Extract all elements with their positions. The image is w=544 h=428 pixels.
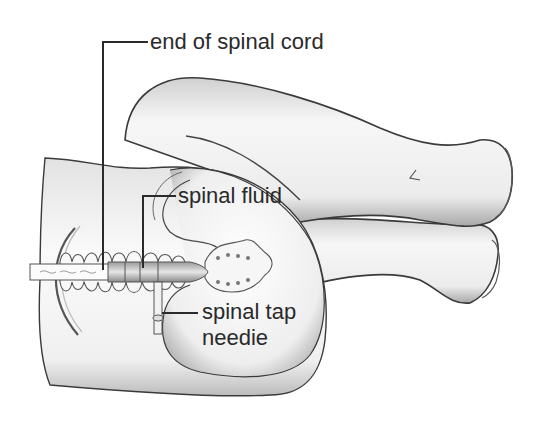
label-end-of-spinal-cord: end of spinal cord bbox=[150, 30, 324, 54]
label-spinal-tap-needle-line2: needie bbox=[202, 326, 268, 350]
spinal-tap-diagram: end of spinal cord spinal fluid spinal t… bbox=[0, 0, 544, 428]
lower-leg bbox=[300, 219, 498, 304]
label-spinal-fluid: spinal fluid bbox=[178, 184, 282, 208]
label-spinal-tap-needle-line1: spinal tap bbox=[202, 300, 296, 324]
body-illustration bbox=[0, 0, 544, 428]
